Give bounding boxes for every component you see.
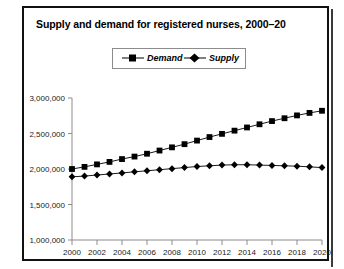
marker-supply [131, 168, 138, 175]
y-axis-tick-label: 1,500,000 [29, 201, 65, 210]
y-axis: 1,000,0001,500,0002,000,0002,500,0003,00… [29, 94, 72, 245]
x-axis-tick-label: 2002 [88, 248, 106, 257]
marker-demand [132, 154, 138, 160]
marker-demand [119, 156, 125, 162]
marker-supply [219, 162, 226, 169]
marker-supply [81, 173, 88, 180]
marker-demand [244, 125, 250, 131]
x-axis: 2000200220042006200820102012201420162018… [63, 240, 331, 257]
marker-supply [294, 163, 301, 170]
x-axis-tick-label: 2014 [238, 248, 256, 257]
marker-demand [107, 159, 113, 165]
marker-demand [144, 151, 150, 157]
marker-supply [231, 161, 238, 168]
marker-supply [256, 162, 263, 169]
marker-demand [269, 118, 275, 124]
footer-clipped-text [40, 264, 320, 269]
x-axis-tick-label: 2012 [213, 248, 231, 257]
marker-demand [194, 138, 200, 144]
marker-supply [144, 167, 151, 174]
marker-demand [232, 128, 238, 134]
marker-supply [181, 164, 188, 171]
marker-demand [169, 144, 175, 150]
marker-supply [306, 163, 313, 170]
marker-demand [219, 131, 225, 137]
x-axis-tick-label: 2000 [63, 248, 81, 257]
marker-supply [119, 169, 126, 176]
marker-supply [156, 166, 163, 173]
y-axis-tick-label: 1,000,000 [29, 236, 65, 245]
marker-supply [244, 161, 251, 168]
marker-supply [319, 164, 326, 171]
marker-supply [194, 163, 201, 170]
x-axis-tick-label: 2020 [313, 248, 331, 257]
marker-demand [294, 112, 300, 118]
marker-supply [169, 165, 176, 172]
marker-demand [319, 108, 325, 114]
marker-supply [94, 172, 101, 179]
marker-demand [257, 121, 263, 127]
marker-demand [157, 148, 163, 154]
x-axis-tick-label: 2010 [188, 248, 206, 257]
marker-demand [182, 141, 188, 147]
marker-demand [69, 166, 75, 172]
data-series-group [69, 108, 326, 180]
x-axis-tick-label: 2008 [163, 248, 181, 257]
marker-supply [281, 162, 288, 169]
marker-demand [94, 161, 100, 167]
marker-supply [69, 173, 76, 180]
y-axis-tick-label: 3,000,000 [29, 94, 65, 103]
x-axis-tick-label: 2006 [138, 248, 156, 257]
marker-demand [307, 110, 313, 116]
chart-plot-area: 1,000,0001,500,0002,000,0002,500,0003,00… [0, 0, 344, 269]
marker-demand [82, 164, 88, 170]
marker-supply [269, 162, 276, 169]
figure-root: Supply and demand for registered nurses,… [0, 0, 344, 269]
marker-demand [207, 134, 213, 140]
marker-supply [106, 170, 113, 177]
x-axis-tick-label: 2004 [113, 248, 131, 257]
y-axis-tick-label: 2,000,000 [29, 165, 65, 174]
x-axis-tick-label: 2016 [263, 248, 281, 257]
marker-demand [282, 115, 288, 121]
x-axis-tick-label: 2018 [288, 248, 306, 257]
marker-supply [206, 162, 213, 169]
y-axis-tick-label: 2,500,000 [29, 130, 65, 139]
